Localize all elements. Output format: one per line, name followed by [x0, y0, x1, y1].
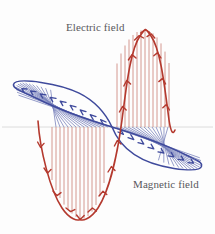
em-wave-diagram: Electric field Magnetic field	[0, 0, 215, 234]
magnetic-field-right-lobe	[112, 127, 202, 170]
magnetic-field-wave	[13, 81, 201, 170]
electric-field-label: Electric field	[66, 22, 125, 33]
magnetic-field-right-arrowheads	[118, 129, 194, 163]
wave-illustration	[0, 0, 215, 234]
electric-field-vectors-crest	[117, 30, 169, 127]
magnetic-field-vectors-left	[16, 83, 112, 127]
magnetic-field-label: Magnetic field	[133, 179, 199, 190]
